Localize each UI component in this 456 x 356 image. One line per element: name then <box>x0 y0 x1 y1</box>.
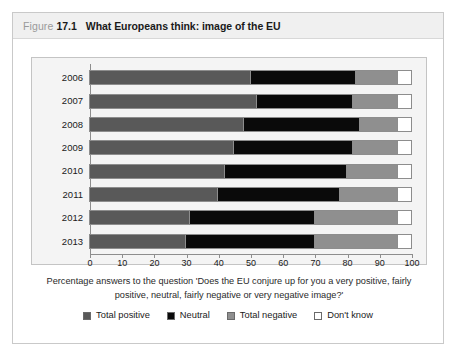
legend-swatch-icon <box>314 312 322 320</box>
axis-tick-label: 70 <box>310 259 320 268</box>
chart-row: 2010 <box>90 160 412 183</box>
bar-segment <box>257 95 353 108</box>
bar-segment <box>340 188 398 201</box>
stacked-bar <box>89 117 412 132</box>
bar-segment <box>218 188 340 201</box>
legend-item[interactable]: Total positive <box>83 311 150 320</box>
figure-number-label: 17.1 <box>56 20 76 32</box>
axis-tick-label: 60 <box>278 259 288 268</box>
bar-segment <box>186 235 314 248</box>
legend-label: Don't know <box>327 311 373 320</box>
axis-tick-label: 80 <box>343 259 353 268</box>
bar-segment <box>353 141 398 154</box>
axis-tick-label: 30 <box>182 259 192 268</box>
bar-segment <box>398 141 411 154</box>
chart-plot-frame: 20062007200820092010201120122013 0102030… <box>31 57 427 265</box>
chart-row: 2007 <box>90 89 412 112</box>
category-label: 2006 <box>62 73 83 83</box>
bar-segment <box>90 95 257 108</box>
axis-tick-label: 20 <box>149 259 159 268</box>
chart-row: 2013 <box>90 230 412 253</box>
chart-row: 2006 <box>90 66 412 89</box>
category-label: 2013 <box>62 237 83 247</box>
legend-item[interactable]: Neutral <box>167 311 210 320</box>
bar-segment <box>398 165 411 178</box>
category-label: 2008 <box>62 120 83 130</box>
bar-segment <box>225 165 347 178</box>
bar-segment <box>190 211 315 224</box>
bar-segment <box>90 118 244 131</box>
legend-swatch-icon <box>83 312 91 320</box>
bar-segment <box>315 235 398 248</box>
bar-segment <box>90 211 190 224</box>
bar-segment <box>398 188 411 201</box>
bar-segment <box>244 118 360 131</box>
stacked-bar <box>89 187 412 202</box>
bar-segment <box>398 95 411 108</box>
chart-row: 2008 <box>90 113 412 136</box>
bar-segment <box>347 165 398 178</box>
legend-swatch-icon <box>227 312 235 320</box>
axis-tick-label: 90 <box>375 259 385 268</box>
legend-item[interactable]: Don't know <box>314 311 373 320</box>
bar-segment <box>398 71 411 84</box>
bar-segment <box>315 211 398 224</box>
bar-segment <box>90 235 186 248</box>
figure-title: What Europeans think: image of the EU <box>86 20 281 32</box>
stacked-bar <box>89 164 412 179</box>
bar-segment <box>398 211 411 224</box>
bar-segment <box>356 71 398 84</box>
legend-item[interactable]: Total negative <box>227 311 297 320</box>
bar-segment <box>90 165 225 178</box>
legend-label: Total positive <box>96 311 150 320</box>
bar-segment <box>90 71 251 84</box>
axis-tick-label: 100 <box>404 259 419 268</box>
figure-prefix-label: Figure <box>23 20 53 32</box>
bar-segment <box>251 71 357 84</box>
chart-row: 2012 <box>90 206 412 229</box>
stacked-bar <box>89 210 412 225</box>
bar-segment <box>398 118 411 131</box>
category-label: 2007 <box>62 96 83 106</box>
axis-tick-label: 10 <box>117 259 127 268</box>
bar-segment <box>360 118 399 131</box>
stacked-bar <box>89 140 412 155</box>
stacked-bar <box>89 234 412 249</box>
bar-segment <box>90 188 218 201</box>
figure-header: Figure 17.1 What Europeans think: image … <box>13 13 443 39</box>
axis-tick-label: 0 <box>87 259 92 268</box>
chart-row: 2009 <box>90 136 412 159</box>
legend-swatch-icon <box>167 312 175 320</box>
category-label: 2011 <box>63 190 83 200</box>
bar-segment <box>90 141 234 154</box>
category-label: 2010 <box>62 166 83 176</box>
chart-plot-area: 20062007200820092010201120122013 <box>90 66 412 253</box>
bar-segment <box>234 141 353 154</box>
chart-legend: Total positiveNeutralTotal negativeDon't… <box>13 311 443 320</box>
bar-segment <box>353 95 398 108</box>
chart-row: 2011 <box>90 183 412 206</box>
axis-tick-label: 40 <box>214 259 224 268</box>
legend-label: Neutral <box>180 311 210 320</box>
category-label: 2009 <box>62 143 83 153</box>
axis-tick-label: 50 <box>246 259 256 268</box>
bar-segment <box>398 235 411 248</box>
stacked-bar <box>89 70 412 85</box>
category-label: 2012 <box>62 213 83 223</box>
legend-label: Total negative <box>240 311 297 320</box>
stacked-bar <box>89 94 412 109</box>
figure-container: Figure 17.1 What Europeans think: image … <box>12 12 444 344</box>
x-axis-ticks: 0102030405060708090100 <box>90 254 412 266</box>
chart-caption: Percentage answers to the question 'Does… <box>43 275 415 303</box>
